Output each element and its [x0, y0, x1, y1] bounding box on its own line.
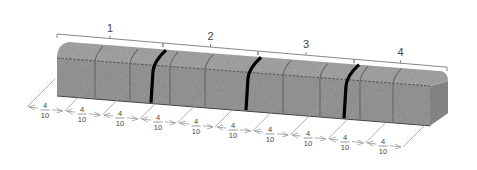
fraction-numerator: 4: [381, 137, 385, 146]
section-label: 1: [107, 22, 113, 34]
measure-segment: 410: [104, 108, 138, 128]
bar-side-face: [430, 81, 448, 126]
measure-segment: 410: [330, 132, 364, 152]
fraction-numerator: 4: [43, 101, 47, 110]
fraction-numerator: 4: [80, 105, 84, 114]
fraction-numerator: 4: [194, 117, 198, 126]
fraction-denominator: 10: [78, 115, 86, 124]
fraction-denominator: 10: [379, 147, 387, 156]
fraction-numerator: 4: [268, 125, 272, 134]
section-label: 2: [207, 30, 213, 42]
measure-segment: 410: [292, 128, 326, 148]
measure-segment: 410: [67, 104, 101, 124]
measure-segment: 410: [142, 112, 176, 132]
diagram-canvas: 1234 410410410410410410410410410410: [0, 0, 477, 170]
fraction-denominator: 10: [304, 139, 312, 148]
fraction-numerator: 4: [306, 129, 310, 138]
fraction-denominator: 10: [229, 131, 237, 140]
measure-segment: 410: [29, 100, 63, 120]
section-label: 4: [397, 46, 403, 58]
fraction-bar-diagram: 1234 410410410410410410410410410410: [0, 0, 477, 170]
fraction-denominator: 10: [341, 143, 349, 152]
fraction-denominator: 10: [192, 127, 200, 136]
measure-segment: 410: [255, 124, 289, 144]
fraction-numerator: 4: [231, 121, 235, 130]
measure-segment: 410: [367, 136, 401, 156]
fraction-denominator: 10: [41, 111, 49, 120]
fraction-numerator: 4: [343, 133, 347, 142]
fraction-denominator: 10: [116, 119, 124, 128]
fraction-numerator: 4: [156, 113, 160, 122]
fraction-denominator: 10: [266, 135, 274, 144]
fraction-numerator: 4: [118, 109, 122, 118]
fraction-denominator: 10: [154, 123, 162, 132]
measure-segment: 410: [179, 116, 213, 136]
section-label: 3: [303, 38, 309, 50]
measure-segment: 410: [217, 120, 251, 140]
